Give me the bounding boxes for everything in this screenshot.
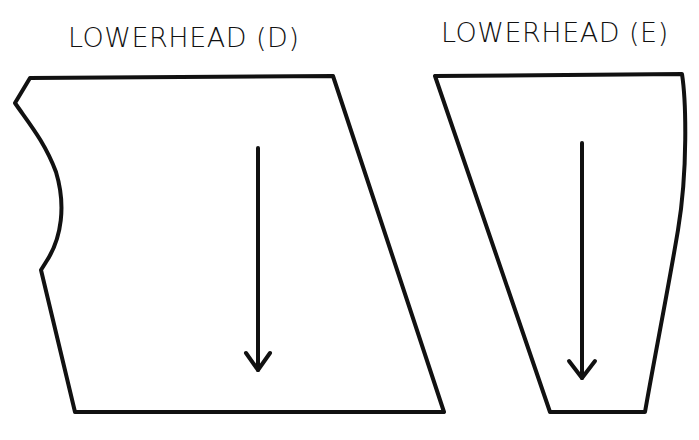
piece-d <box>15 76 444 412</box>
piece-e-grainline-arrow-icon <box>569 143 595 378</box>
piece-e-outline <box>435 74 685 412</box>
pattern-diagram <box>0 0 699 440</box>
piece-d-outline <box>15 76 444 412</box>
piece-e <box>435 74 685 412</box>
piece-d-grainline-arrow-icon <box>246 148 270 370</box>
